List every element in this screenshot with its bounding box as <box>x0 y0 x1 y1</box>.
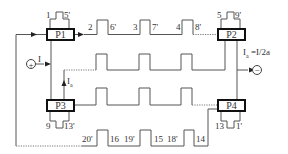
label-8prime: 8' <box>195 22 202 32</box>
label-output-current-eq: =I/2a <box>251 47 270 57</box>
label-input-current: I <box>38 54 41 64</box>
port-p4: P4 <box>218 100 245 111</box>
label-18prime: 18' <box>167 134 178 144</box>
port-label: P2 <box>226 29 237 40</box>
port-p2: P2 <box>218 29 245 40</box>
port-label: P3 <box>55 100 66 111</box>
arrow-up-icon <box>62 80 67 86</box>
label-4: 4 <box>176 22 181 32</box>
label-7prime: 7' <box>152 22 159 32</box>
label-14: 14 <box>196 134 206 144</box>
label-19prime: 19' <box>124 134 135 144</box>
label-13prime: 13' <box>64 121 75 131</box>
plus-icon: + <box>28 60 33 70</box>
input-terminal: + <box>27 60 36 70</box>
output-terminal: − <box>253 65 262 75</box>
hall-bar-meander-diagram: P1 P2 P3 P4 1 5' 5 9' 9 13' 13 1' 2 6' 3… <box>0 0 288 154</box>
label-6prime: 6' <box>110 22 117 32</box>
label-20prime: 20' <box>82 134 93 144</box>
minus-icon: − <box>254 65 259 75</box>
port-label: P1 <box>55 29 66 40</box>
port-p3: P3 <box>47 100 74 111</box>
arrow-right-icon <box>45 62 51 67</box>
label-output-current-sub: a <box>246 53 249 59</box>
label-2: 2 <box>88 22 93 32</box>
label-9: 9 <box>46 121 51 131</box>
label-16: 16 <box>110 134 120 144</box>
label-13: 13 <box>215 121 225 131</box>
label-3: 3 <box>133 22 138 32</box>
lower-middle-meander <box>74 88 218 105</box>
arrow-left-icon <box>31 32 37 37</box>
label-1prime: 1' <box>236 121 243 131</box>
label-9prime: 9' <box>235 10 242 20</box>
label-sense-current-sub: a <box>70 82 73 88</box>
label-15: 15 <box>154 134 164 144</box>
label-5: 5 <box>217 10 222 20</box>
port-p1: P1 <box>47 29 74 40</box>
label-5prime: 5' <box>64 10 71 20</box>
upper-middle-meander <box>62 40 226 100</box>
label-1: 1 <box>46 10 51 20</box>
port-label: P4 <box>226 100 237 111</box>
p1-p3-wire <box>35 40 51 100</box>
arrow-right-icon <box>78 32 84 37</box>
